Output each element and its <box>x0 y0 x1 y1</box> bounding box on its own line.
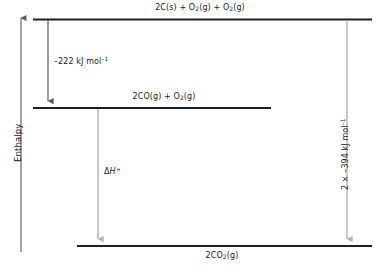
level-label-intermediate: 2CO(g) + O2(g) <box>133 93 196 101</box>
arrow-label-overall: ΔH⦵ <box>104 166 121 176</box>
enthalpy-diagram: Enthalpy 2C(s) + O2(g) + O2(g) 2CO(g) + … <box>0 0 382 272</box>
diagram-canvas <box>0 0 382 272</box>
arrow-label-step-one: –222 kJ mol–1 <box>54 56 108 66</box>
level-label-reactants: 2C(s) + O2(g) + O2(g) <box>155 4 245 12</box>
level-label-products: 2CO2(g) <box>206 252 239 260</box>
arrow-label-formation: 2 × –394 kJ mol–1 <box>340 118 350 190</box>
enthalpy-axis-label: Enthalpy <box>14 124 23 162</box>
